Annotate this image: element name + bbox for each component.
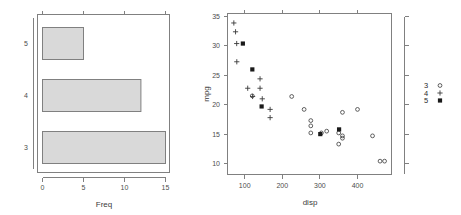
scatter-xtick-label: 300 <box>314 182 326 189</box>
scatter-point-open-circle <box>309 119 313 123</box>
bar-ytick-label: 4 <box>24 92 28 99</box>
scatter-chart-panel: 35 30 25 20 15 10 100 200 300 400 disp m… <box>200 0 461 215</box>
scatter-point-open-circle <box>309 131 313 135</box>
scatter-ytick-label: 35 <box>212 13 220 20</box>
bar-x-ticks <box>43 178 166 182</box>
scatter-legend: 3 4 5 <box>424 81 443 105</box>
legend-plus-icon <box>437 90 442 95</box>
scatter-ytick-label: 15 <box>212 131 220 138</box>
scatter-point-open-circle <box>337 131 341 135</box>
legend-label: 5 <box>424 96 428 105</box>
scatter-point-plus <box>268 107 273 112</box>
scatter-point-open-circle <box>325 129 329 133</box>
scatter-point-plus <box>260 96 265 101</box>
scatter-point-plus <box>257 76 262 81</box>
scatter-x-ticks <box>245 175 358 179</box>
scatter-point-plus <box>233 29 238 34</box>
scatter-point-open-circle <box>302 108 306 112</box>
bar-xtick-label: 5 <box>82 184 86 191</box>
scatter-xtick-label: 100 <box>239 182 251 189</box>
bar-chart-panel: 5 4 3 0 5 10 15 Freq <box>0 0 200 215</box>
bar-xtick-label: 15 <box>162 184 170 191</box>
scatter-xtick-label: 200 <box>276 182 288 189</box>
bar-ytick-label: 5 <box>24 40 28 47</box>
scatter-top-ticks <box>245 10 358 14</box>
bar-rect[interactable] <box>43 80 141 112</box>
scatter-point-open-circle <box>341 110 345 114</box>
scatter-yaxis-title: mpg <box>202 86 211 102</box>
bar-rect[interactable] <box>43 132 166 164</box>
scatter-point-open-circle <box>337 142 341 146</box>
bar-rect[interactable] <box>43 28 84 60</box>
scatter-ytick-label: 20 <box>212 101 220 108</box>
scatter-right-axis-ticks <box>405 17 409 164</box>
bar-xaxis-title: Freq <box>96 200 112 209</box>
scatter-ytick-label: 10 <box>212 160 220 167</box>
scatter-point-filled-square <box>318 132 322 136</box>
legend-filled-square-icon <box>438 98 442 102</box>
scatter-point-plus <box>245 86 250 91</box>
figure-canvas: 5 4 3 0 5 10 15 Freq 35 30 25 20 15 10 <box>0 0 461 215</box>
scatter-points-layer <box>231 20 386 163</box>
scatter-point-filled-square <box>250 67 254 71</box>
scatter-point-open-circle <box>378 159 382 163</box>
scatter-xaxis-title: disp <box>303 198 318 207</box>
scatter-y-ticks <box>224 17 228 164</box>
scatter-point-open-circle <box>383 159 387 163</box>
scatter-point-plus <box>234 59 239 64</box>
scatter-point-plus <box>257 86 262 91</box>
scatter-point-open-circle <box>341 134 345 138</box>
scatter-point-filled-square <box>337 127 341 131</box>
scatter-ytick-label: 30 <box>212 42 220 49</box>
scatter-point-open-circle <box>309 124 313 128</box>
bar-top-ticks <box>43 11 166 15</box>
scatter-ytick-label: 25 <box>212 72 220 79</box>
scatter-xtick-label: 400 <box>352 182 364 189</box>
legend-open-circle-icon <box>438 84 442 88</box>
bar-xtick-label: 10 <box>121 184 129 191</box>
scatter-point-filled-square <box>241 41 245 45</box>
scatter-point-open-circle <box>371 134 375 138</box>
scatter-point-open-circle <box>356 108 360 112</box>
scatter-point-plus <box>231 20 236 25</box>
scatter-point-plus <box>234 41 239 46</box>
scatter-point-open-circle <box>290 95 294 99</box>
scatter-point-filled-square <box>260 104 264 108</box>
scatter-point-plus <box>268 115 273 120</box>
bar-xtick-label: 0 <box>41 184 45 191</box>
bar-ytick-label: 3 <box>24 144 28 151</box>
